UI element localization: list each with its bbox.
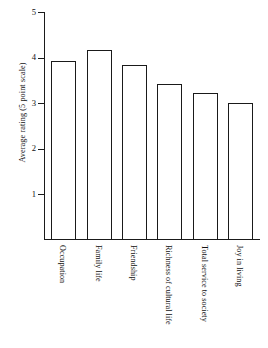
x-axis-category-label: Friendship xyxy=(127,245,139,281)
y-axis-tick-mark xyxy=(38,149,45,150)
bar xyxy=(51,61,76,239)
y-axis-tick-mark xyxy=(38,12,45,13)
x-axis-category-label: Family life xyxy=(92,245,104,282)
y-axis-tick-label: 5 xyxy=(22,8,36,17)
y-axis-tick-label: 3 xyxy=(22,99,36,108)
bar xyxy=(122,65,147,239)
y-axis-tick-mark xyxy=(38,58,45,59)
y-axis-tick-label: 2 xyxy=(22,144,36,153)
x-axis-category-label: Total service to society xyxy=(198,245,210,322)
y-axis-tick-label: 1 xyxy=(22,190,36,199)
y-axis-tick-mark xyxy=(38,194,45,195)
x-axis-category-label: Joy in living xyxy=(233,245,245,287)
bar xyxy=(157,84,182,239)
x-axis-line xyxy=(44,239,260,240)
y-axis-title: Average rating (5 point scale) xyxy=(18,47,27,179)
x-axis-category-label: Richness of cultural life xyxy=(162,245,174,325)
bar xyxy=(87,50,112,239)
bar xyxy=(228,103,253,239)
y-axis-tick-mark xyxy=(38,103,45,104)
x-axis-category-label: Occupation xyxy=(56,245,68,283)
bar xyxy=(193,93,218,239)
y-axis-line xyxy=(44,12,45,240)
bar-chart: Average rating (5 point scale) 12345 Occ… xyxy=(0,0,268,348)
y-axis-tick-label: 4 xyxy=(22,53,36,62)
